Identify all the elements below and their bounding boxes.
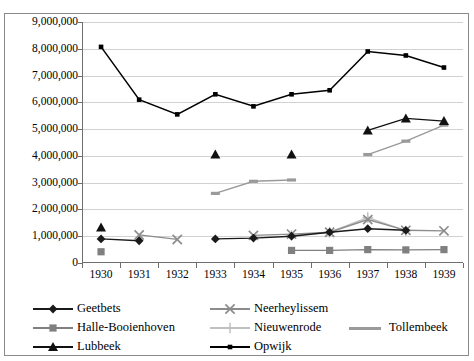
- series-tollembeek: [211, 123, 449, 194]
- legend-swatch-small-square-icon: [210, 340, 250, 354]
- data-point-dash: [287, 178, 296, 181]
- legend-item-geetbets[interactable]: Geetbets: [33, 300, 121, 317]
- legend-swatch-diamond-icon: [33, 302, 73, 316]
- data-point-small-square: [327, 88, 332, 93]
- series-opwijk: [99, 45, 447, 117]
- data-point-square: [97, 248, 104, 255]
- data-point-small-square: [228, 344, 233, 349]
- chart-legend: GeetbetsHalle-BooienhovenLubbeekNeerheyl…: [5, 300, 464, 355]
- y-axis-tick-label: 4,000,000: [2, 150, 78, 162]
- data-point-dash: [249, 180, 258, 183]
- x-axis-tick-mark: [311, 263, 312, 268]
- legend-label: Nieuwenrode: [254, 321, 321, 334]
- series-line: [254, 220, 444, 236]
- data-point-dash: [363, 153, 372, 156]
- x-axis-tick-mark: [425, 263, 426, 268]
- x-axis-tick-mark: [120, 263, 121, 268]
- data-point-square: [402, 246, 409, 253]
- data-point-small-square: [213, 92, 218, 97]
- y-axis-tick-label: 0: [2, 257, 78, 269]
- data-point-dash: [211, 192, 220, 195]
- data-point-square: [288, 247, 295, 254]
- data-point-small-square: [175, 112, 180, 117]
- x-axis-tick-mark: [463, 263, 464, 268]
- data-point-triangle: [96, 222, 106, 231]
- legend-swatch-plus-icon: [210, 321, 250, 335]
- legend-swatch-triangle-icon: [33, 340, 73, 354]
- x-axis-tick-mark: [234, 263, 235, 268]
- y-axis-tick-label: 6,000,000: [2, 96, 78, 108]
- data-point-square: [440, 246, 447, 253]
- data-point-triangle: [401, 113, 411, 122]
- legend-label: Lubbeek: [77, 340, 121, 353]
- series-layer: [82, 22, 463, 263]
- data-point-diamond: [287, 232, 296, 241]
- legend-label: Geetbets: [77, 302, 121, 315]
- legend-item-tollembeek[interactable]: Tollembeek: [345, 319, 448, 336]
- data-point-diamond: [363, 224, 372, 233]
- data-point-triangle: [210, 150, 220, 159]
- series-line: [101, 239, 139, 241]
- data-point-small-square: [404, 53, 409, 58]
- x-axis-tick-mark: [158, 263, 159, 268]
- data-point-square: [326, 247, 333, 254]
- x-axis-tick-mark: [196, 263, 197, 268]
- legend-swatch-square-icon: [33, 321, 73, 335]
- y-axis-tick-label: 8,000,000: [2, 43, 78, 55]
- data-point-small-square: [137, 97, 142, 102]
- data-point-cross-x: [225, 304, 234, 313]
- y-axis-tick-label: 2,000,000: [2, 203, 78, 215]
- series-line: [101, 47, 444, 115]
- data-point-small-square: [251, 104, 256, 109]
- legend-swatch-cross-x-icon: [210, 302, 250, 316]
- series-line: [215, 229, 406, 239]
- data-point-small-square: [99, 45, 104, 50]
- chart-figure: 01,000,0002,000,0003,000,0004,000,0005,0…: [0, 0, 474, 361]
- data-point-small-square: [442, 65, 447, 70]
- legend-label: Neerheylissem: [254, 302, 328, 315]
- legend-item-opwijk[interactable]: Opwijk: [210, 338, 292, 355]
- series-lubbeek: [96, 113, 449, 231]
- legend-label: Opwijk: [254, 340, 292, 353]
- x-axis-tick-mark: [349, 263, 350, 268]
- legend-label: Halle-Booienhoven: [77, 321, 175, 334]
- legend-item-lubbeek[interactable]: Lubbeek: [33, 338, 121, 355]
- legend-item-nieuwenrode[interactable]: Nieuwenrode: [210, 319, 321, 336]
- legend-item-neerheylissem[interactable]: Neerheylissem: [210, 300, 328, 317]
- x-axis-tick-mark: [82, 263, 83, 268]
- data-point-diamond: [211, 235, 220, 244]
- y-axis-tick-label: 9,000,000: [2, 16, 78, 28]
- data-point-diamond: [49, 304, 58, 313]
- data-point-small-square: [289, 92, 294, 97]
- data-point-triangle: [287, 150, 297, 159]
- legend-label: Tollembeek: [389, 321, 448, 334]
- x-axis-tick-mark: [387, 263, 388, 268]
- data-point-diamond: [97, 235, 106, 244]
- y-axis-tick-label: 1,000,000: [2, 230, 78, 242]
- y-axis-tick-label: 5,000,000: [2, 123, 78, 135]
- series-halle-booienhoven: [97, 246, 447, 255]
- series-line: [139, 235, 177, 240]
- data-point-dash: [401, 140, 410, 143]
- y-axis-tick-label: 3,000,000: [2, 177, 78, 189]
- data-point-plus: [225, 322, 235, 332]
- y-axis-tick-label: 7,000,000: [2, 70, 78, 82]
- x-axis-tick-mark: [273, 263, 274, 268]
- legend-item-halle-booienhoven[interactable]: Halle-Booienhoven: [33, 319, 175, 336]
- data-point-square: [49, 324, 56, 331]
- data-point-small-square: [365, 49, 370, 54]
- data-point-triangle: [48, 342, 58, 351]
- x-axis-tick-label: 1939: [422, 268, 466, 280]
- plot-area: [82, 22, 463, 263]
- data-point-square: [364, 246, 371, 253]
- legend-swatch-none-icon: [345, 321, 385, 335]
